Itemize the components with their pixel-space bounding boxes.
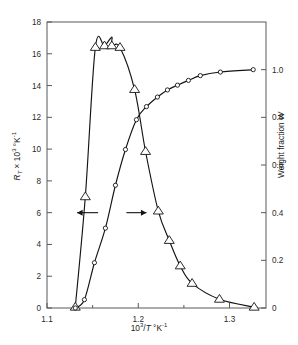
data-point-circle xyxy=(198,74,202,78)
right-axis-arrow xyxy=(126,210,146,216)
data-markers xyxy=(70,41,259,310)
data-point-circle xyxy=(103,226,107,230)
x-axis-ticks: 1.11.21.3 xyxy=(41,303,235,324)
data-point-circle xyxy=(92,261,96,265)
y-left-tick-label: 14 xyxy=(32,82,42,91)
data-point-circle xyxy=(134,118,138,122)
arrow-head-icon xyxy=(77,210,83,216)
data-point-circle xyxy=(123,147,127,151)
y-right-tick-label: 0.2 xyxy=(272,256,284,265)
data-point-triangle xyxy=(130,85,140,93)
arrow-head-icon xyxy=(141,210,147,216)
y-left-tick-label: 18 xyxy=(32,18,42,27)
data-point-circle xyxy=(82,298,86,302)
curve-w xyxy=(75,70,253,308)
y-left-tick-label: 16 xyxy=(32,50,42,59)
curve-r-t xyxy=(75,36,254,307)
y-right-tick-label: 0.4 xyxy=(272,209,284,218)
y-left-tick-label: 0 xyxy=(36,304,41,313)
data-point-triangle xyxy=(141,147,151,155)
y-axis-left-ticks: 024681012141618 xyxy=(32,18,52,313)
data-point-circle xyxy=(175,83,179,87)
y-axis-right-label: Weight fraction W xyxy=(276,90,286,200)
y-right-tick-label: 1.0 xyxy=(272,66,284,75)
data-point-circle xyxy=(73,306,77,310)
x-axis-label: 103/T °K-1 xyxy=(0,322,298,333)
y-left-tick-label: 8 xyxy=(36,177,41,186)
data-point-triangle xyxy=(153,206,163,214)
figure-container: 1.11.21.3 024681012141618 00.20.40.60.81… xyxy=(0,0,298,345)
y-right-tick-label: 0 xyxy=(272,304,277,313)
data-point-triangle xyxy=(164,236,174,244)
left-axis-arrow xyxy=(77,210,98,216)
y-left-tick-label: 2 xyxy=(36,272,41,281)
data-point-circle xyxy=(144,105,148,109)
data-point-circle xyxy=(155,95,159,99)
data-point-triangle xyxy=(175,261,185,269)
y-left-tick-label: 6 xyxy=(36,209,41,218)
y-left-tick-label: 12 xyxy=(32,113,42,122)
chart-plot: 1.11.21.3 024681012141618 00.20.40.60.81… xyxy=(0,0,298,345)
y-axis-left-label: RT × 103 °K-1 xyxy=(11,101,23,211)
y-left-tick-label: 4 xyxy=(36,240,41,249)
data-point-circle xyxy=(165,88,169,92)
data-curves xyxy=(75,36,254,308)
data-point-circle xyxy=(186,78,190,82)
y-left-tick-label: 10 xyxy=(32,145,42,154)
data-point-circle xyxy=(218,70,222,74)
data-point-circle xyxy=(113,183,117,187)
axis-pointer-arrows xyxy=(77,210,146,216)
data-point-circle xyxy=(251,68,255,72)
data-point-triangle xyxy=(80,192,90,200)
